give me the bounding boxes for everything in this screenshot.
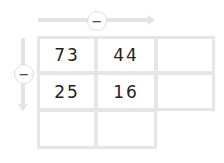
grid-cell-r2c2: 16 bbox=[95, 72, 157, 111]
right-arrow-icon bbox=[148, 15, 155, 25]
vertical-minus-operator: − bbox=[14, 64, 34, 84]
grid-cell-r3c1-answer[interactable] bbox=[37, 109, 97, 149]
grid-cell-r2c1: 25 bbox=[37, 72, 97, 111]
grid-cell-r1c2: 44 bbox=[95, 36, 157, 74]
horizontal-minus-operator: − bbox=[87, 11, 107, 31]
grid-cell-r3c2-answer[interactable] bbox=[95, 109, 157, 149]
grid-cell-r2c3-answer[interactable] bbox=[155, 72, 215, 111]
down-arrow-icon bbox=[18, 104, 28, 111]
grid-cell-r1c3-answer[interactable] bbox=[155, 36, 215, 74]
grid-cell-r1c1: 73 bbox=[37, 36, 97, 74]
